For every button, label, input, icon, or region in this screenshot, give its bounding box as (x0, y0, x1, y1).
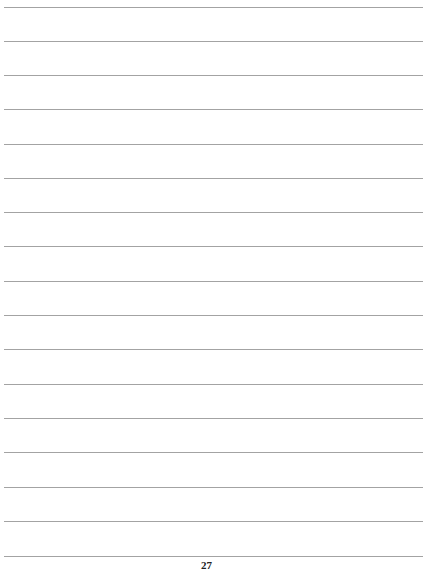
ruled-line (4, 41, 423, 42)
ruled-line (4, 556, 423, 557)
ruled-line (4, 452, 423, 453)
ruled-line (4, 212, 423, 213)
ruled-line (4, 315, 423, 316)
ruled-line (4, 246, 423, 247)
page-number: 27 (0, 559, 413, 571)
lined-page: 27 (0, 0, 427, 572)
ruled-line (4, 75, 423, 76)
ruled-line (4, 487, 423, 488)
ruled-line (4, 109, 423, 110)
ruled-line (4, 418, 423, 419)
ruled-line (4, 281, 423, 282)
ruled-line (4, 178, 423, 179)
ruled-line (4, 144, 423, 145)
ruled-line (4, 384, 423, 385)
ruled-line (4, 349, 423, 350)
ruled-line (4, 7, 423, 8)
ruled-line (4, 521, 423, 522)
